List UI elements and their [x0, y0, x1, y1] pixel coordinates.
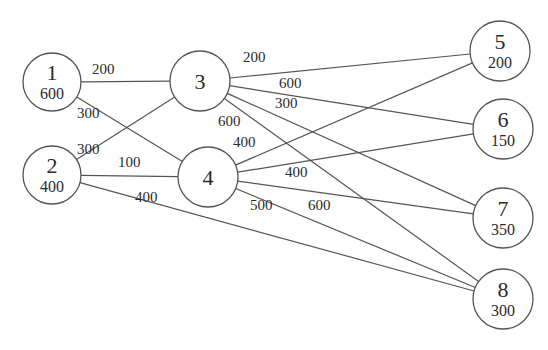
node-value-label: 200: [488, 54, 512, 71]
edge-label-1-3: 200: [92, 61, 115, 77]
node-2: 2400: [23, 146, 81, 204]
node-value-label: 300: [491, 302, 515, 319]
node-value-label: 150: [491, 132, 515, 149]
edge-3-5: [230, 54, 470, 78]
node-4: 4: [178, 147, 238, 207]
network-diagram: 200300300100400200600300600400400500600 …: [0, 0, 548, 350]
edge-3-7: [227, 93, 475, 205]
node-id-label: 3: [195, 69, 206, 94]
edge-4-6: [238, 134, 474, 172]
edge-4-7: [238, 181, 474, 214]
node-8: 8300: [473, 269, 533, 329]
node-3: 3: [170, 51, 230, 111]
node-value-label: 400: [40, 178, 64, 195]
edge-label-3-8: 600: [218, 113, 241, 129]
edge-3-6: [230, 86, 474, 125]
node-id-label: 4: [203, 165, 214, 190]
edge-label-4-8: 600: [308, 197, 331, 213]
node-id-label: 8: [498, 277, 509, 302]
edge-label-3-7: 300: [275, 95, 298, 111]
edge-label-2-8: 400: [135, 189, 158, 205]
edge-label-4-7: 500: [250, 197, 273, 213]
node-7: 7350: [473, 188, 533, 248]
edge-label-3-5: 200: [243, 49, 266, 65]
node-id-label: 7: [498, 196, 509, 221]
node-id-label: 6: [498, 107, 509, 132]
node-id-label: 5: [495, 29, 506, 54]
edge-label-2-3: 300: [77, 141, 100, 157]
edge-label-1-4: 300: [77, 105, 100, 121]
node-id-label: 1: [47, 60, 58, 85]
edge-label-4-6: 400: [285, 164, 308, 180]
node-value-label: 350: [491, 221, 515, 238]
node-1: 1600: [23, 53, 81, 111]
edge-1-3: [81, 81, 170, 82]
node-value-label: 600: [40, 85, 64, 102]
node-5: 5200: [470, 21, 530, 81]
edge-label-3-6: 600: [279, 75, 302, 91]
edge-4-5: [236, 63, 473, 165]
node-id-label: 2: [47, 153, 58, 178]
edges-layer: [77, 54, 479, 291]
node-6: 6150: [473, 99, 533, 159]
edge-2-4: [81, 175, 178, 176]
edge-label-2-4: 100: [118, 154, 141, 170]
edge-label-4-5: 400: [233, 134, 256, 150]
